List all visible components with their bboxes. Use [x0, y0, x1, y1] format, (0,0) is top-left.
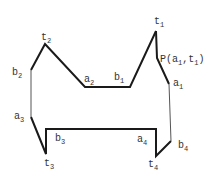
label-a4: a4: [137, 134, 147, 147]
label-t2: t2: [41, 32, 51, 45]
label-b3: b3: [55, 133, 65, 146]
label-a3: a3: [14, 111, 24, 124]
label-a1: a1: [173, 78, 183, 91]
edge-a3-t3-b3-a4-t4-b4: [31, 117, 171, 156]
edge-a1-b4: [169, 84, 171, 141]
thick-edges: [31, 31, 171, 156]
label-P-a1-t1: P(a1,t1): [160, 54, 204, 67]
vertex-labels: t2 b2 a2 b1 t1 P(a1,t1) a1 a3 b3 t3 a4 b…: [12, 16, 204, 172]
thin-edges: [31, 70, 171, 141]
label-t1: t1: [154, 16, 164, 29]
label-t4: t4: [148, 159, 158, 172]
label-b4: b4: [178, 140, 188, 153]
label-b2: b2: [12, 67, 22, 80]
label-b1: b1: [114, 72, 124, 85]
label-a2: a2: [84, 74, 94, 87]
label-t3: t3: [44, 158, 54, 171]
polygon-diagram: t2 b2 a2 b1 t1 P(a1,t1) a1 a3 b3 t3 a4 b…: [0, 0, 217, 185]
